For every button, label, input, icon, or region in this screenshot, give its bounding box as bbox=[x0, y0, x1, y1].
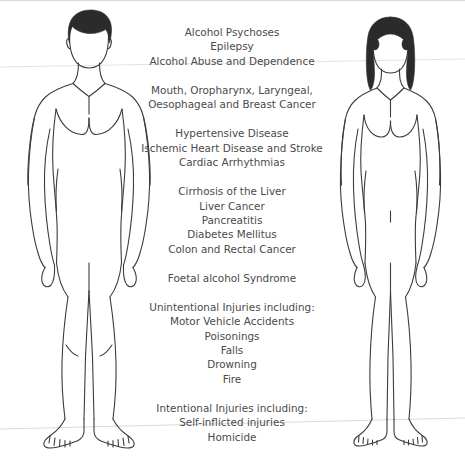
conditions-text-column: Alcohol Psychoses Epilepsy Alcohol Abuse… bbox=[82, 1, 382, 444]
male-arm-inner-left bbox=[44, 129, 54, 265]
condition-line: Motor Vehicle Accidents bbox=[82, 314, 382, 328]
group-spacer bbox=[82, 169, 382, 184]
male-knee-left bbox=[66, 345, 78, 356]
group-spacer bbox=[82, 68, 382, 83]
male-hand-left bbox=[42, 265, 55, 287]
female-hand-right bbox=[416, 265, 427, 287]
condition-line: Colon and Rectal Cancer bbox=[82, 242, 382, 256]
male-foot-left bbox=[44, 419, 84, 448]
female-arm-right bbox=[424, 119, 441, 268]
condition-group-brain-neurological: Alcohol Psychoses Epilepsy Alcohol Abuse… bbox=[82, 25, 382, 68]
condition-line: Drowning bbox=[82, 357, 382, 371]
condition-line: Fire bbox=[82, 372, 382, 386]
condition-line: Intentional Injuries including: bbox=[82, 401, 382, 415]
condition-line: Cirrhosis of the Liver bbox=[82, 184, 382, 198]
condition-line: Homicide bbox=[82, 430, 382, 444]
condition-line: Unintentional Injuries including: bbox=[82, 300, 382, 314]
female-waist-line-right bbox=[415, 171, 417, 213]
female-arm-inner-right bbox=[418, 129, 428, 265]
female-foot-right bbox=[394, 419, 427, 446]
condition-line: Falls bbox=[82, 343, 382, 357]
condition-line: Self-inflicted injuries bbox=[82, 415, 382, 429]
female-leg-right-outer bbox=[406, 297, 412, 419]
condition-group-cardiovascular: Hypertensive Disease Ischemic Heart Dise… bbox=[82, 126, 382, 169]
condition-group-digestive-metabolic: Cirrhosis of the Liver Liver Cancer Panc… bbox=[82, 184, 382, 255]
condition-line: Liver Cancer bbox=[82, 199, 382, 213]
condition-line: Mouth, Oropharynx, Laryngeal, bbox=[82, 83, 382, 97]
condition-line: Pancreatitis bbox=[82, 213, 382, 227]
alcohol-body-map-infographic: Alcohol Psychoses Epilepsy Alcohol Abuse… bbox=[0, 0, 465, 465]
group-spacer bbox=[82, 256, 382, 271]
female-toes-right bbox=[404, 436, 423, 446]
condition-line: Epilepsy bbox=[82, 39, 382, 53]
condition-group-cancers-upper: Mouth, Oropharynx, Laryngeal, Oesophagea… bbox=[82, 83, 382, 112]
condition-line: Poisonings bbox=[82, 329, 382, 343]
male-waist-line-left bbox=[56, 169, 58, 211]
condition-line: Alcohol Psychoses bbox=[82, 25, 382, 39]
group-spacer bbox=[82, 285, 382, 300]
condition-line: Diabetes Mellitus bbox=[82, 227, 382, 241]
condition-line: Ischemic Heart Disease and Stroke bbox=[82, 141, 382, 155]
female-leg-right-inner bbox=[391, 291, 395, 419]
condition-group-foetal: Foetal alcohol Syndrome bbox=[82, 271, 382, 285]
condition-line: Alcohol Abuse and Dependence bbox=[82, 54, 382, 68]
female-leg-left-inner bbox=[387, 291, 391, 419]
condition-line: Oesophageal and Breast Cancer bbox=[82, 97, 382, 111]
male-ear-left bbox=[67, 39, 71, 49]
male-arm-left bbox=[28, 117, 45, 268]
condition-line: Foetal alcohol Syndrome bbox=[82, 271, 382, 285]
group-spacer bbox=[82, 111, 382, 126]
condition-line: Hypertensive Disease bbox=[82, 126, 382, 140]
male-leg-left-outer bbox=[62, 297, 68, 419]
condition-group-intentional-injuries: Intentional Injuries including: Self-inf… bbox=[82, 401, 382, 444]
group-spacer bbox=[82, 386, 382, 401]
condition-line: Cardiac Arrhythmias bbox=[82, 155, 382, 169]
male-toes-left bbox=[49, 436, 70, 447]
female-breast-right bbox=[391, 115, 418, 137]
condition-group-unintentional-injuries: Unintentional Injuries including: Motor … bbox=[82, 300, 382, 386]
